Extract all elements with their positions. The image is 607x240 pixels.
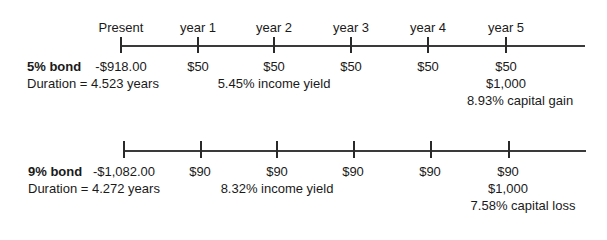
tick-year-4 [427,37,429,53]
bond-duration: Duration = 4.523 years [27,76,159,91]
tick-year-1 [200,141,202,158]
tick-year-2 [273,37,275,53]
income-yield-label: 5.45% income yield [218,76,331,91]
cashflow-year-4: $90 [419,164,441,179]
cashflow-year-5: $90 [497,164,519,179]
income-yield-label: 8.32% income yield [221,181,334,196]
cashflow-year-1: $50 [187,59,209,74]
cashflow-year-2: $50 [263,59,285,74]
tick-year-1 [197,37,199,53]
cashflow-year-1: $90 [189,164,211,179]
tick-year-5 [505,37,507,53]
period-label-year-1: year 1 [180,20,216,35]
bond-duration: Duration = 4.272 years [28,181,160,196]
tick-year-5 [508,141,510,158]
principal-label: $1,000 [486,76,526,91]
cashflow-present: -$918.00 [95,59,146,74]
tick-year-2 [276,141,278,158]
period-label-year-4: year 4 [410,20,446,35]
capital-change-label: 8.93% capital gain [467,93,573,108]
capital-change-label: 7.58% capital loss [471,198,576,213]
cashflow-year-3: $90 [342,164,364,179]
cashflow-year-3: $50 [340,59,362,74]
cashflow-year-4: $50 [417,59,439,74]
tick-present [120,37,122,53]
principal-label: $1,000 [488,181,528,196]
tick-year-3 [350,37,352,53]
period-label-year-3: year 3 [333,20,369,35]
tick-year-3 [353,141,355,158]
bond-name: 9% bond [28,164,82,179]
timeline-axis [120,45,585,47]
tick-present [123,141,125,158]
tick-year-4 [430,141,432,158]
cashflow-year-2: $90 [266,164,288,179]
cashflow-present: -$1,082.00 [93,164,155,179]
period-label-present: Present [99,20,144,35]
period-label-year-2: year 2 [256,20,292,35]
cashflow-year-5: $50 [495,59,517,74]
period-label-year-5: year 5 [488,20,524,35]
bond-name: 5% bond [27,59,81,74]
